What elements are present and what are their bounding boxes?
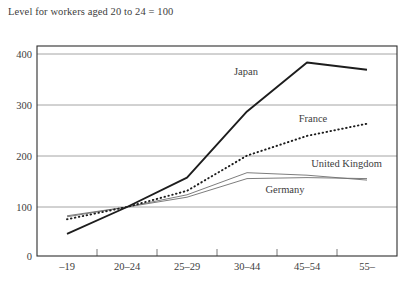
- xtick-label-3: 25–29: [174, 261, 200, 272]
- ytick-label-300: 300: [16, 100, 32, 111]
- ytick-label-200: 200: [16, 151, 32, 162]
- chart-container: Level for workers aged 20 to 24 = 100 0 …: [0, 0, 416, 289]
- xtick-label-5: 45–54: [294, 261, 321, 272]
- plot-frame: [37, 46, 397, 256]
- xtick-label-6: 55–: [359, 261, 376, 272]
- line-chart-plot: 0 100 200 300 400 –19 20–24 25–29 30–44 …: [0, 0, 416, 289]
- y-axis-labels: 0 100 200 300 400: [16, 49, 32, 262]
- ytick-label-0: 0: [27, 251, 32, 262]
- x-axis-tickmarks: [97, 249, 337, 256]
- x-axis-labels: –19 20–24 25–29 30–44 45–54 55–: [58, 261, 376, 272]
- series-line-france: [67, 124, 367, 220]
- ytick-label-400: 400: [16, 49, 32, 60]
- series-label-japan: Japan: [234, 66, 259, 77]
- series-line-japan: [67, 63, 367, 234]
- xtick-label-1: –19: [58, 261, 75, 272]
- series-label-germany: Germany: [265, 184, 305, 195]
- ytick-label-100: 100: [16, 202, 32, 213]
- series-label-united-kingdom: United Kingdom: [311, 158, 382, 169]
- series-label-france: France: [299, 113, 328, 124]
- xtick-label-2: 20–24: [114, 261, 141, 272]
- xtick-label-4: 30–44: [234, 261, 261, 272]
